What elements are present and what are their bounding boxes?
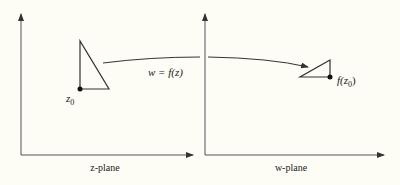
z-plane-label: z-plane (90, 162, 120, 173)
z0-point (78, 87, 83, 92)
mapping-arrow (208, 57, 308, 67)
f-z0-point (328, 75, 333, 80)
z0-label: z0 (65, 92, 74, 107)
z0-label-sub: 0 (70, 98, 74, 107)
f-z0-label-prefix: f(z (337, 74, 349, 87)
w-plane-triangle (300, 60, 330, 77)
mapping-label: w = f(z) (148, 66, 183, 79)
conformal-mapping-diagram: w = f(z) z0 f(z0) z-plane w-plane (0, 0, 400, 185)
f-z0-label: f(z0) (337, 74, 356, 89)
w-plane-label: w-plane (275, 162, 308, 173)
mapping-curve-left (103, 57, 200, 63)
f-z0-label-suffix: ) (352, 74, 356, 87)
w-plane-axes (205, 14, 384, 155)
z-plane-axes (21, 14, 193, 155)
z-plane-triangle (80, 41, 109, 89)
